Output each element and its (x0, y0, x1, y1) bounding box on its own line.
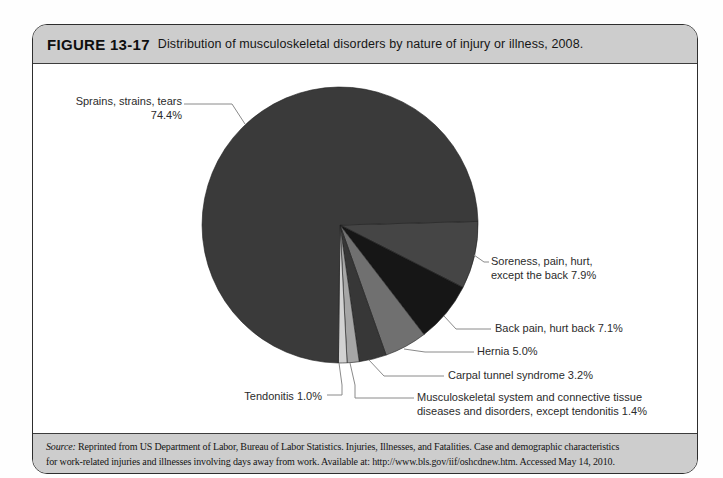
leader-line-carpal (369, 360, 444, 376)
label-carpal: Carpal tunnel syndrome 3.2% (448, 369, 593, 383)
label-hernia: Hernia 5.0% (477, 345, 538, 359)
leader-line-hernia (404, 349, 474, 352)
label-sprains: Sprains, strains, tears 74.4% (58, 95, 182, 122)
label-soreness: Soreness, pain, hurt, except the back 7.… (491, 255, 596, 282)
leader-line-msk (350, 363, 414, 398)
pie-slices (202, 87, 478, 363)
leader-line-back-pain (444, 316, 491, 329)
label-tendonitis: Tendonitis 1.0% (210, 390, 322, 404)
label-msk: Musculoskeletal system and connective ti… (417, 391, 647, 418)
leader-line-soreness (474, 255, 489, 262)
label-back-pain: Back pain, hurt back 7.1% (495, 322, 623, 336)
scanned-figure-page: FIGURE 13-17 Distribution of musculoskel… (0, 0, 723, 478)
leader-line-sprains (184, 104, 245, 124)
leader-line-tendonitis (327, 363, 342, 395)
